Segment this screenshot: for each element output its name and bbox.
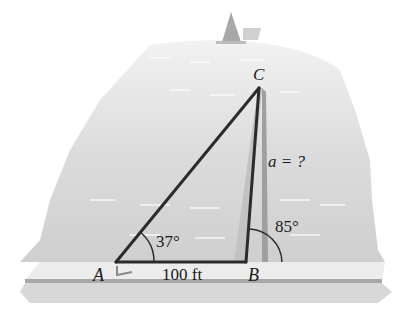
side-a-label: a = ? (268, 153, 305, 170)
angle-a-label: 37° (156, 233, 180, 250)
ground (20, 283, 392, 303)
side-ab-label: 100 ft (162, 266, 202, 283)
vertex-c-label: C (253, 66, 264, 83)
water-area (20, 40, 385, 262)
vertex-b-label: B (248, 266, 259, 284)
sailboat-icon (216, 12, 261, 44)
side-a-var: a = ? (268, 152, 305, 171)
shore (25, 262, 385, 280)
vertex-a-label: A (93, 266, 104, 284)
angle-b-label: 85° (275, 218, 299, 235)
shore-edge (25, 279, 382, 283)
